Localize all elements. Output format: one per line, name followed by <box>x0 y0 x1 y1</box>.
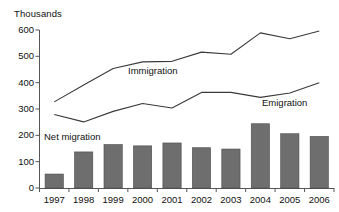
bar-net-migration-2005 <box>281 134 299 188</box>
migration-chart: Thousands 0100200300400500600 1997199819… <box>0 0 339 212</box>
x-tick-label: 2003 <box>216 195 245 205</box>
bar-net-migration-2002 <box>192 148 210 188</box>
y-tick-label: 400 <box>5 78 34 88</box>
bar-net-migration-1999 <box>104 145 122 188</box>
bar-net-migration-2003 <box>222 149 240 188</box>
x-tick-label: 2002 <box>187 195 216 205</box>
x-tick-label: 1999 <box>98 195 127 205</box>
y-tick-label: 100 <box>5 157 34 167</box>
y-tick-label: 600 <box>5 25 34 35</box>
bar-net-migration-2006 <box>310 136 328 188</box>
x-tick-label: 1998 <box>69 195 98 205</box>
y-tick-label: 0 <box>5 183 34 193</box>
series-label-emigration: Emigration <box>262 97 307 108</box>
x-tick-label: 2001 <box>157 195 186 205</box>
series-label-immigration: Immigration <box>128 65 178 76</box>
bar-net-migration-2000 <box>133 146 151 188</box>
x-tick-label: 2005 <box>275 195 304 205</box>
y-tick-label: 300 <box>5 104 34 114</box>
x-tick-label: 2006 <box>305 195 334 205</box>
x-tick-label: 1997 <box>40 195 69 205</box>
y-axis-ticks <box>36 30 40 188</box>
bar-net-migration-2004 <box>251 124 269 188</box>
bar-net-migration-1997 <box>45 174 63 188</box>
y-tick-label: 500 <box>5 51 34 61</box>
y-tick-label: 200 <box>5 130 34 140</box>
bar-net-migration-2001 <box>163 143 181 188</box>
bar-net-migration-1998 <box>75 152 93 188</box>
immigration-line <box>54 31 319 102</box>
x-tick-label: 2000 <box>128 195 157 205</box>
x-tick-label: 2004 <box>246 195 275 205</box>
series-label-net-migration: Net migration <box>44 131 101 142</box>
